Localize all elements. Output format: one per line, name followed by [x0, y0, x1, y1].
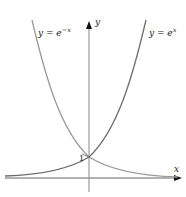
intercept-label: 1 [79, 154, 84, 163]
x-axis-arrow-icon [174, 175, 182, 181]
curve-e-neg-x [32, 20, 178, 177]
label-e-x-main: y = e [148, 28, 173, 38]
label-e-neg-x: y = e−x [37, 26, 71, 38]
y-axis-label: y [94, 17, 101, 27]
exponential-chart: 1 y x y = e−x y = ex [0, 0, 186, 197]
y-axis-arrow-icon [86, 21, 92, 29]
label-e-neg-x-main: y = e [37, 28, 62, 38]
label-e-x: y = ex [148, 26, 177, 38]
x-axis-label: x [174, 164, 179, 174]
label-e-neg-x-exp: −x [62, 26, 71, 34]
curve-e-x [5, 20, 146, 176]
label-e-x-exp: x [173, 26, 177, 34]
